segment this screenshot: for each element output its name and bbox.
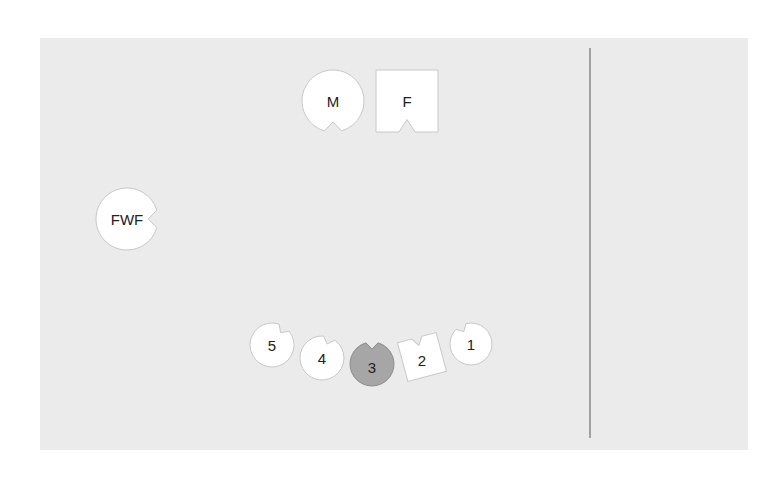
seat-label: FWF [111,211,143,228]
seat-label: 1 [467,336,475,353]
seat-label: 5 [268,337,276,354]
seat-label: 4 [318,350,326,367]
seat-1: 1 [450,323,492,365]
seat-label: 3 [368,359,376,376]
seat-label: F [402,93,411,110]
seating-diagram: MFFWF54321 [0,0,776,483]
seat-label: M [327,93,340,110]
seat-label: 2 [418,352,426,369]
seat-m: M [302,70,364,131]
seat-4: 4 [300,336,344,380]
seat-3: 3 [350,343,394,386]
seat-fwf: FWF [96,188,157,250]
